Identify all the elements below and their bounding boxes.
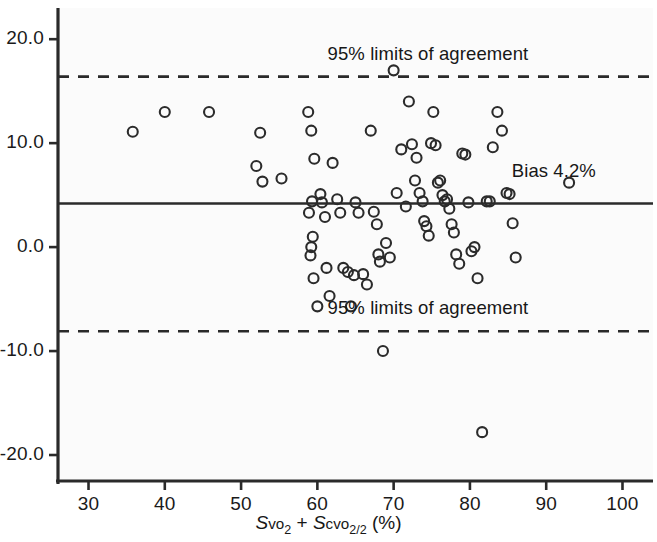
x-axis-title-cvo2: cvo <box>326 515 350 532</box>
y-tick-label-1: 10.0 <box>6 131 44 153</box>
y-tick-label-4: -20.0 <box>0 443 44 465</box>
x-axis-title-s2: S <box>313 512 326 533</box>
upper-loa-label: 95% limits of agreement <box>328 43 529 65</box>
y-tick-label-0: 20.0 <box>6 27 44 49</box>
plot-background <box>58 8 653 481</box>
scatter-plot-canvas <box>0 0 657 542</box>
x-axis-title-sub2: 2/2 <box>349 523 366 537</box>
y-tick-label-3: -10.0 <box>0 339 44 361</box>
y-tick-label-2: 0.0 <box>17 235 44 257</box>
lower-loa-label: 95% limits of agreement <box>328 297 529 319</box>
x-axis-title: Svo2 + Scvo2/2 (%) <box>0 512 657 537</box>
x-axis-title-plus: + <box>291 512 313 533</box>
x-axis-title-percent: (%) <box>367 512 402 533</box>
bias-label: Bias 4.2% <box>512 160 596 182</box>
bland-altman-figure: 20.010.00.0-10.0-20.0 30405060708090100 … <box>0 0 657 542</box>
x-axis-title-s1: S <box>256 512 269 533</box>
x-axis-title-vo1: vo <box>268 515 284 532</box>
plot-area-background <box>58 8 653 481</box>
